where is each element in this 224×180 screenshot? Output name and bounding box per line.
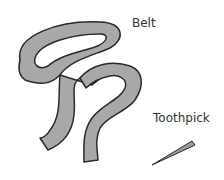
illustration-canvas bbox=[0, 0, 224, 180]
belt-label: Belt bbox=[132, 16, 156, 30]
toothpick-label: Toothpick bbox=[153, 111, 210, 125]
toothpick-icon bbox=[152, 141, 195, 165]
belt-icon bbox=[19, 22, 141, 162]
